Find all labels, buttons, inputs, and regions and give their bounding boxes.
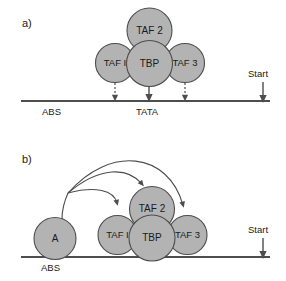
panel-b-activator-stem (62, 193, 68, 219)
panel-a-start-label: Start (248, 68, 268, 79)
panel-a-node-tbp: TBP (127, 41, 173, 87)
panel-b-node-activator: A (34, 218, 76, 260)
panel-b-label-abs: ABS (41, 262, 60, 273)
panel-a-taf3-label: TAF 3 (172, 57, 197, 68)
panel-b-taf3-label: TAF 3 (175, 229, 200, 240)
panel-a-label-abs: ABS (42, 106, 61, 117)
figure-canvas: a) TAF I TAF 3 TAF 2 TBP (0, 0, 286, 281)
panel-b-activator-label: A (52, 233, 59, 244)
panel-b-recruit-arrow-taf1 (68, 190, 117, 203)
panel-b-tbp-label: TBP (142, 232, 162, 243)
panel-b-label: b) (22, 153, 32, 165)
panel-a-taf1-label: TAF I (104, 57, 127, 68)
panel-b-node-tbp: TBP (129, 215, 175, 261)
panel-a-tbp-label: TBP (140, 58, 160, 69)
tbp-taf-assembly-diagram: a) TAF I TAF 3 TAF 2 TBP (0, 0, 286, 281)
panel-b-taf2-label: TAF 2 (139, 203, 166, 214)
panel-b-start-label: Start (248, 224, 268, 235)
panel-b-taf1-label: TAF I (106, 229, 129, 240)
panel-a-label-tata: TATA (136, 106, 159, 117)
panel-a-label: a) (22, 17, 32, 29)
panel-a: a) TAF I TAF 3 TAF 2 TBP (21, 8, 270, 117)
panel-b: b) A TAF I TAF 3 (21, 153, 270, 273)
panel-a-taf2-label: TAF 2 (136, 25, 163, 36)
